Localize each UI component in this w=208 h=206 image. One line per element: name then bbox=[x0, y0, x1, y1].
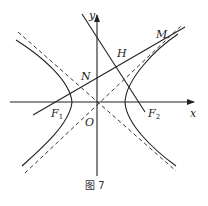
point-H-label: H bbox=[116, 47, 127, 60]
origin-label: O bbox=[85, 116, 94, 129]
point-N-label: N bbox=[80, 70, 91, 83]
hyperbola-right-branch bbox=[125, 34, 178, 166]
point-M-label: M bbox=[155, 28, 168, 41]
point-F2-label: F2 bbox=[147, 107, 160, 121]
asymptote-positive bbox=[25, 24, 183, 173]
line-F2-H bbox=[82, 14, 145, 112]
x-axis-label: x bbox=[190, 107, 197, 120]
hyperbola-diagram: y x O M H N F1 F2 图 7 bbox=[0, 0, 208, 206]
hyperbola-left-branch bbox=[16, 40, 72, 166]
figure-caption: 图 7 bbox=[85, 180, 105, 191]
point-F1-label: F1 bbox=[50, 107, 63, 121]
y-axis-label: y bbox=[88, 9, 96, 22]
